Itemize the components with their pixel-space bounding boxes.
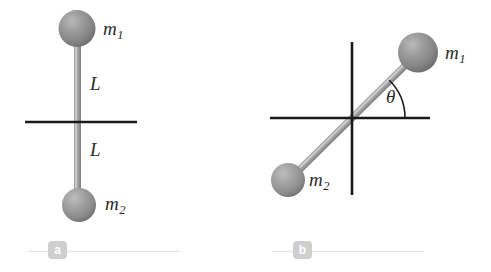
- label-m1-base-panel-b: m: [445, 42, 459, 63]
- label-m1-panel-a: m1: [103, 19, 123, 42]
- physics-figure-rotating-dumbbell: m1 L L m2 a: [0, 0, 491, 272]
- label-m1-base-panel-a: m: [103, 18, 117, 39]
- mass-sphere-m2-panel-a: [62, 188, 96, 222]
- label-m2-subscript-panel-a: 2: [119, 203, 125, 217]
- label-m2-base-panel-b: m: [309, 169, 323, 190]
- label-m2-subscript-panel-b: 2: [323, 179, 329, 193]
- label-m2-panel-a: m2: [105, 194, 125, 217]
- label-length-lower-panel-a: L: [90, 140, 101, 159]
- mass-sphere-m1-panel-b: [398, 33, 438, 73]
- label-m1-subscript-panel-a: 1: [117, 28, 123, 42]
- rod-panel-a: [74, 28, 81, 206]
- panel-b-diagram: [245, 0, 491, 232]
- mass-sphere-m2-panel-b: [271, 163, 305, 197]
- label-m2-base-panel-a: m: [105, 193, 119, 214]
- panel-a-caption: a: [0, 232, 245, 272]
- panel-a: m1 L L m2 a: [0, 0, 245, 272]
- panel-b-caption: b: [245, 232, 491, 272]
- panel-b: m1 θ m2 b: [245, 0, 491, 272]
- label-m1-panel-b: m1: [445, 43, 465, 66]
- label-m1-subscript-panel-b: 1: [459, 52, 465, 66]
- panel-label-badge-b: b: [293, 241, 312, 259]
- label-theta-panel-b: θ: [386, 87, 395, 106]
- label-m2-panel-b: m2: [309, 170, 329, 193]
- label-length-upper-panel-a: L: [90, 74, 101, 93]
- mass-sphere-m1-panel-a: [59, 10, 96, 47]
- panel-label-badge-a: a: [48, 241, 67, 259]
